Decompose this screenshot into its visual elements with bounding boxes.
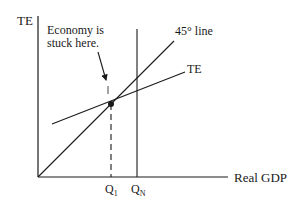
qn-base: Q <box>131 182 140 196</box>
q1-base: Q <box>105 182 114 196</box>
keynesian-cross-diagram: TE Real GDP Economy is stuck here. 45° l… <box>0 0 304 204</box>
te-line-label: TE <box>187 62 202 76</box>
q1-tick-label: Q1 <box>105 182 118 198</box>
forty-five-degree-line <box>38 41 174 177</box>
x-axis-label: Real GDP <box>234 170 287 185</box>
annotation-arrow-icon <box>98 52 106 80</box>
qn-tick-label: QN <box>131 182 146 198</box>
annotation-line-2: stuck here. <box>47 36 99 50</box>
y-axis-label: TE <box>17 13 33 28</box>
qn-subscript: N <box>140 189 146 198</box>
forty-five-line-label: 45° line <box>175 24 213 38</box>
te-line <box>52 72 185 124</box>
annotation-line-1: Economy is <box>47 23 104 37</box>
q1-subscript: 1 <box>114 189 118 198</box>
equilibrium-point <box>108 101 114 107</box>
